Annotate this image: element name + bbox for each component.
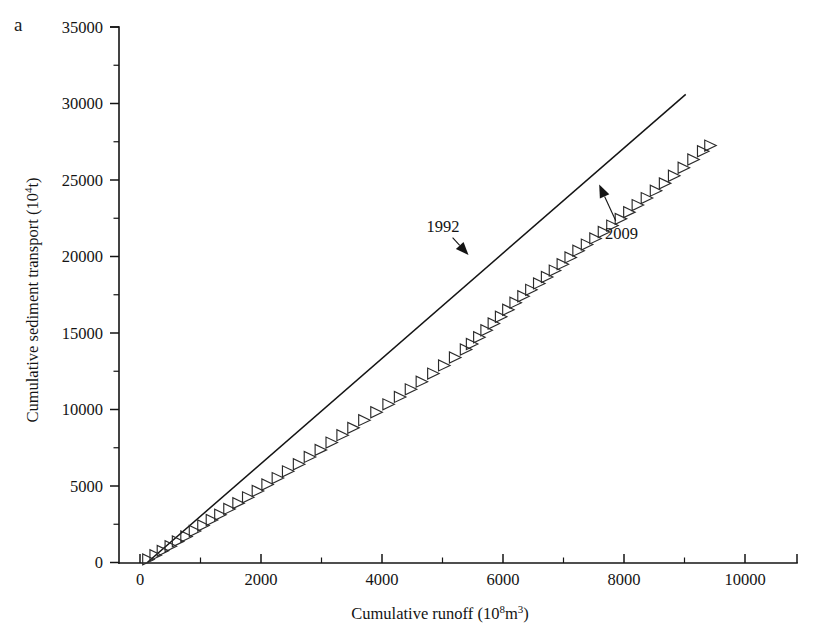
x-axis-title: Cumulative runoff (108m3) <box>351 603 529 623</box>
data-point-marker <box>439 360 451 371</box>
data-point-marker <box>394 391 406 402</box>
data-markers <box>143 140 717 565</box>
x-tick-label: 2000 <box>245 570 278 589</box>
data-point-marker <box>573 245 585 256</box>
annotation-arrow-line <box>605 196 616 220</box>
data-point-marker <box>215 509 227 520</box>
data-point-marker <box>304 451 316 462</box>
data-point-marker <box>224 503 236 514</box>
y-tick-label: 0 <box>95 553 103 572</box>
data-point-marker <box>659 178 671 189</box>
y-tick-label: 5000 <box>70 477 103 496</box>
data-point-marker <box>337 430 349 441</box>
data-point-marker <box>293 459 305 470</box>
y-axis-title: Cumulative sediment transport (104t) <box>22 177 42 422</box>
data-point-marker <box>549 265 561 276</box>
data-point-marker <box>348 422 360 433</box>
data-point-marker <box>565 252 577 263</box>
data-point-marker <box>495 311 507 322</box>
x-tick-label: 4000 <box>366 570 399 589</box>
data-point-marker <box>590 233 602 244</box>
annotation-arrow-line <box>453 238 460 246</box>
data-point-marker <box>405 384 417 395</box>
data-point-marker <box>474 332 486 343</box>
data-point-marker <box>557 259 569 270</box>
x-tick-label: 0 <box>136 570 144 589</box>
data-point-marker <box>481 325 493 336</box>
data-point-marker <box>624 207 636 218</box>
data-point-marker <box>581 239 593 250</box>
data-point-marker <box>488 318 500 329</box>
data-point-marker <box>518 291 530 302</box>
data-point-marker <box>510 297 522 308</box>
data-point-marker <box>632 200 644 211</box>
y-tick-label: 25000 <box>62 171 103 190</box>
x-tick-label: 8000 <box>608 570 641 589</box>
y-tick-labels: 05000100001500020000250003000035000 <box>62 18 103 573</box>
y-tick-label: 20000 <box>62 247 103 266</box>
figure-root: a 0200040006000800010000 050001000015000… <box>0 0 814 641</box>
data-point-marker <box>383 399 395 410</box>
data-point-marker <box>315 444 327 455</box>
data-point-marker <box>541 272 553 283</box>
annotation-label-2009: 2009 <box>605 224 638 243</box>
data-point-marker <box>449 352 461 363</box>
data-point-marker <box>371 407 383 418</box>
data-point-marker <box>697 146 709 157</box>
annotation-label-1992: 1992 <box>427 217 460 236</box>
y-tick-label: 35000 <box>62 18 103 37</box>
data-point-marker <box>526 284 538 295</box>
double-mass-curve-chart: 0200040006000800010000 05000100001500020… <box>0 0 814 641</box>
annotation-arrow-head <box>599 185 609 199</box>
data-point-marker <box>326 437 338 448</box>
data-point-marker <box>534 278 546 289</box>
data-point-marker <box>359 415 371 426</box>
x-tick-label: 6000 <box>487 570 520 589</box>
fit-line <box>147 94 685 562</box>
x-tick-label: 10000 <box>724 570 765 589</box>
data-point-marker <box>650 185 662 196</box>
y-tick-label: 15000 <box>62 324 103 343</box>
data-point-marker <box>428 368 440 379</box>
data-point-marker <box>282 466 294 477</box>
y-tick-label: 10000 <box>62 400 103 419</box>
plot-axes <box>110 27 797 563</box>
y-tick-label: 30000 <box>62 94 103 113</box>
x-tick-labels: 0200040006000800010000 <box>136 570 766 589</box>
data-point-marker <box>641 193 653 204</box>
data-point-marker <box>416 376 428 387</box>
data-point-marker <box>503 304 514 315</box>
